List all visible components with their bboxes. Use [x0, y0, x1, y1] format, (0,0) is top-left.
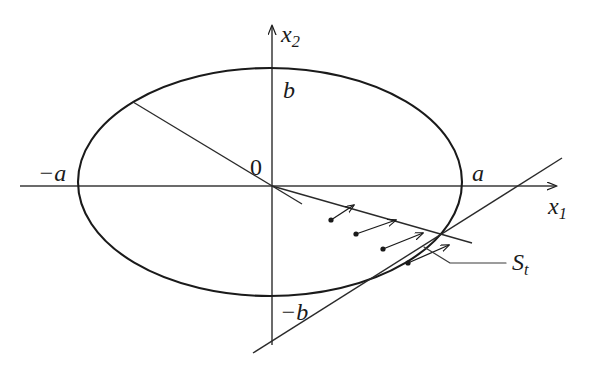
- semi-axis-a-label: a: [472, 161, 484, 185]
- semi-axis-b-label: b: [283, 78, 295, 102]
- vector-arrow-2: [356, 220, 396, 234]
- set-st-label: St: [512, 250, 529, 279]
- base-point-4: [405, 260, 410, 265]
- axis-x2-label: x2: [281, 22, 300, 51]
- base-point-3: [380, 246, 385, 251]
- base-point-group: [328, 217, 410, 265]
- semi-axis-neg-a-label: −a: [38, 161, 66, 185]
- ellipse-curve: [78, 68, 462, 296]
- axis-x1-label: x1: [548, 194, 567, 223]
- base-point-2: [353, 231, 358, 236]
- base-point-1: [328, 217, 333, 222]
- chord-diagonal-line: [133, 102, 302, 204]
- vector-arrow-3: [383, 233, 423, 249]
- semi-axis-neg-b-label: −b: [280, 300, 308, 324]
- ellipse-figure: x1 x2 b −b a −a 0 St: [0, 0, 601, 368]
- vector-group: [331, 205, 449, 263]
- origin-label: 0: [250, 155, 262, 179]
- vector-arrow-1: [331, 205, 354, 220]
- st-leader-line: [424, 247, 506, 263]
